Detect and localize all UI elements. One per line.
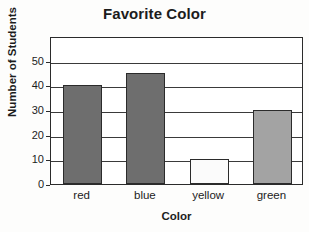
y-tick-mark-20 [46,136,50,137]
x-tick-label-blue: blue [113,189,176,201]
bar-green [253,110,292,184]
plot-area [50,37,303,185]
y-tick-mark-40 [46,86,50,87]
y-tick-mark-30 [46,111,50,112]
bar-blue [126,73,165,184]
y-tick-label-30: 30 [12,104,44,116]
y-tick-label-10: 10 [12,153,44,165]
x-axis-title: Color [50,210,303,222]
x-tick-label-green: green [240,189,303,201]
bar-yellow [190,159,229,184]
y-tick-mark-0 [46,185,50,186]
y-tick-label-0: 0 [12,178,44,190]
bar-red [63,85,102,184]
y-tick-mark-10 [46,160,50,161]
y-tick-mark-50 [46,62,50,63]
y-tick-label-40: 40 [12,79,44,91]
y-tick-label-20: 20 [12,129,44,141]
chart-title: Favorite Color [0,5,309,22]
bar-chart-figure: Favorite Color Number of Students 010203… [0,0,309,232]
x-tick-label-red: red [50,189,113,201]
x-tick-label-yellow: yellow [177,189,240,201]
y-tick-label-50: 50 [12,55,44,67]
gridline-50 [51,63,302,64]
